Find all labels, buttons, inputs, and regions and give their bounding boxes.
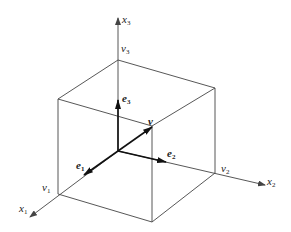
vectors: [84, 100, 166, 175]
v2-label: v2: [221, 162, 230, 176]
cube-diagram: x3 x2 x1 v3 v2 v1 e3 e2 e1 v: [0, 0, 291, 232]
x1-label: x1: [18, 202, 28, 216]
e1-vector: [84, 151, 118, 175]
cube-edge-bottom-left: [58, 194, 152, 222]
e2-label: e2: [167, 147, 176, 161]
v-vector: [118, 127, 152, 151]
x2-label: x2: [266, 175, 276, 189]
cube-top-face: [58, 60, 215, 126]
e2-vector: [118, 151, 166, 162]
labels: x3 x2 x1 v3 v2 v1 e3 e2 e1 v: [18, 13, 276, 216]
e3-label: e3: [122, 92, 131, 106]
v-label: v: [148, 115, 153, 127]
v3-label: v3: [121, 42, 130, 56]
cube-edges: [58, 60, 215, 222]
x3-label: x3: [121, 13, 131, 27]
v1-label: v1: [42, 181, 51, 195]
e1-label: e1: [76, 159, 85, 173]
cube-edge-bottom-right: [152, 173, 215, 222]
